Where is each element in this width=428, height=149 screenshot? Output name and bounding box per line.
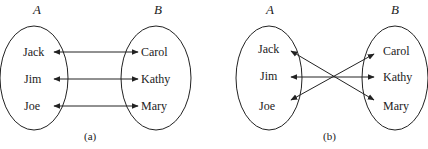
element-kathy: Kathy bbox=[141, 72, 170, 86]
element-mary: Mary bbox=[141, 99, 167, 113]
caption-a: (a) bbox=[84, 130, 97, 143]
set-a-label: A bbox=[265, 2, 274, 17]
element-jim: Jim bbox=[260, 69, 278, 83]
element-carol: Carol bbox=[383, 44, 410, 58]
element-mary: Mary bbox=[383, 99, 409, 113]
diagram-a: A B Jack Jim Joe Carol Kathy Mary (a) bbox=[0, 2, 191, 143]
element-kathy: Kathy bbox=[383, 70, 412, 84]
set-b-label: B bbox=[154, 2, 162, 17]
caption-b: (b) bbox=[323, 130, 336, 143]
element-carol: Carol bbox=[141, 45, 168, 59]
element-jim: Jim bbox=[24, 72, 42, 86]
bijection-diagrams: A B Jack Jim Joe Carol Kathy Mary (a) A … bbox=[0, 0, 428, 149]
diagram-b: A B Jack Jim Joe Carol Kathy Mary (b) bbox=[236, 2, 428, 143]
element-joe: Joe bbox=[24, 99, 40, 113]
set-a-label: A bbox=[32, 2, 41, 17]
set-b-label: B bbox=[391, 2, 399, 17]
element-jack: Jack bbox=[258, 42, 279, 56]
element-jack: Jack bbox=[23, 45, 44, 59]
element-joe: Joe bbox=[259, 99, 275, 113]
